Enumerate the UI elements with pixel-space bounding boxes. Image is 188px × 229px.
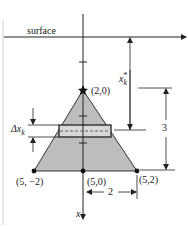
- base-right-label: (5,2): [139, 175, 158, 185]
- surface-label: surface: [27, 26, 56, 36]
- base-center-label: (5,0): [87, 177, 106, 187]
- base-left-point: [32, 169, 37, 174]
- base-left-label: (5, −2): [16, 177, 43, 187]
- base-right-point: [135, 169, 140, 174]
- strip-width-label-main: Δx: [11, 123, 21, 134]
- strip-width-label: Δxk: [11, 124, 25, 137]
- triangular-plate-diagram: surface (2,0) (5, −2) (5,0) (5,2) xk* Δx…: [0, 0, 188, 229]
- half-base-dimension-label: 2: [108, 187, 113, 197]
- depth-label: xk*: [119, 72, 127, 87]
- base-center-point: [81, 169, 86, 174]
- height-dimension-label: 3: [162, 123, 167, 133]
- depth-label-sup: *: [123, 71, 127, 80]
- strip-width-label-sub: k: [21, 128, 25, 137]
- apex-label: (2,0): [91, 86, 110, 96]
- axis-label: x: [76, 209, 80, 219]
